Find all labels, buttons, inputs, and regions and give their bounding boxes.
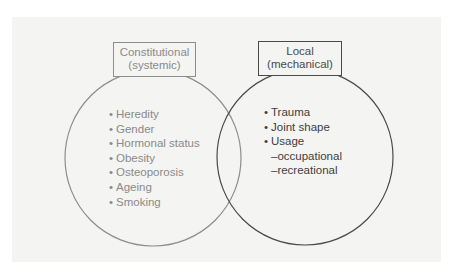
left-set-label: Constitutional (systemic) [113,42,196,77]
bullet-icon: • [109,195,116,210]
list-subitem: –recreational [264,163,342,178]
bullet-icon: • [109,151,116,166]
bullet-icon: • [109,180,116,195]
list-item: •Joint shape [264,120,342,135]
list-subitem: –occupational [264,149,342,164]
bullet-icon: • [109,107,116,122]
bullet-icon: • [264,105,271,120]
venn-circles [0,0,454,280]
left-set-label-title: Constitutional [114,46,195,59]
list-item: •Hormonal status [109,136,200,151]
left-set-label-subtitle: (systemic) [114,59,195,72]
bullet-icon: • [264,120,271,135]
bullet-icon: • [109,136,116,151]
list-item: •Obesity [109,151,200,166]
bullet-icon: • [264,134,271,149]
left-set-factor-list: •Heredity •Gender •Hormonal status •Obes… [109,107,200,209]
list-item: •Gender [109,122,200,137]
list-item: •Usage [264,134,342,149]
list-item: •Ageing [109,180,200,195]
right-set-factor-list: •Trauma •Joint shape •Usage –occupationa… [264,105,342,178]
list-item: •Osteoporosis [109,165,200,180]
right-set-label: Local (mechanical) [258,41,342,76]
list-item: •Smoking [109,195,200,210]
list-item: •Trauma [264,105,342,120]
bullet-icon: • [109,122,116,137]
bullet-icon: • [109,165,116,180]
list-item: •Heredity [109,107,200,122]
right-set-label-subtitle: (mechanical) [259,58,341,71]
right-set-label-title: Local [259,45,341,58]
